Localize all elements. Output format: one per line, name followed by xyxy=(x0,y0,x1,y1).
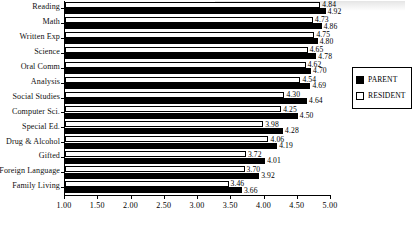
bar-value-label: 4.86 xyxy=(324,23,338,31)
bar-group: 4.254.50 xyxy=(65,105,331,120)
bar-value-label: 4.78 xyxy=(318,53,332,61)
bar-resident xyxy=(65,32,314,38)
bar-parent xyxy=(65,113,298,119)
category-label-computer-sci: Computer Sci. xyxy=(12,107,60,116)
bar-group: 3.703.92 xyxy=(65,165,331,180)
bar-value-label: 4.19 xyxy=(279,142,293,150)
category-label-oral-comm: Oral Comm xyxy=(21,62,60,71)
category-label-written-exp: Written Exp xyxy=(19,32,60,41)
bar-parent xyxy=(65,98,307,104)
plot-area: 4.844.924.734.864.754.804.654.784.624.70… xyxy=(64,1,331,195)
x-tick-label: 1.00 xyxy=(57,201,72,210)
bar-group: 4.734.86 xyxy=(65,16,331,31)
category-label-family-living: Family Living xyxy=(12,181,60,190)
x-tick-label: 5.00 xyxy=(323,201,338,210)
legend-label: PARENT xyxy=(368,76,397,84)
bar-value-label: 4.50 xyxy=(300,112,314,120)
bar-parent xyxy=(65,187,242,193)
x-tick-label: 3.50 xyxy=(223,201,238,210)
bar-group: 4.844.92 xyxy=(65,1,331,16)
category-label-foreign-language: Foreign Language xyxy=(0,166,60,175)
legend-label: RESIDENT xyxy=(368,92,406,100)
category-axis: ReadingMathWritten ExpScienceOral CommAn… xyxy=(0,0,62,196)
bar-resident xyxy=(65,2,320,8)
chart-legend: PARENTRESIDENT xyxy=(352,67,412,109)
legend-swatch-icon xyxy=(356,76,364,84)
bar-group: 4.064.19 xyxy=(65,135,331,150)
x-tick xyxy=(131,195,132,199)
legend-item-resident: RESIDENT xyxy=(356,88,408,104)
bar-parent xyxy=(65,173,259,179)
x-tick xyxy=(97,195,98,199)
x-tick xyxy=(330,195,331,199)
bar-resident xyxy=(65,47,308,53)
category-label-reading: Reading xyxy=(32,2,60,11)
bar-parent xyxy=(65,53,316,59)
legend-swatch-icon xyxy=(356,92,364,100)
bar-value-label: 4.64 xyxy=(309,97,323,105)
bar-value-label: 4.70 xyxy=(313,67,327,75)
bar-parent xyxy=(65,128,283,134)
x-tick xyxy=(197,195,198,199)
bar-value-label: 3.92 xyxy=(261,172,275,180)
x-tick-label: 2.00 xyxy=(123,201,138,210)
bar-parent xyxy=(65,143,277,149)
bar-group: 3.984.28 xyxy=(65,120,331,135)
bar-resident xyxy=(65,106,281,112)
bar-resident xyxy=(65,151,246,157)
bar-parent xyxy=(65,8,326,14)
bar-parent xyxy=(65,83,310,89)
bar-value-label: 4.69 xyxy=(312,82,326,90)
category-label-special-ed: Special Ed. xyxy=(22,122,60,131)
bar-value-label: 4.01 xyxy=(267,157,281,165)
category-label-social-studies: Social Studies xyxy=(13,92,61,101)
bar-group: 4.544.69 xyxy=(65,76,331,91)
bar-group: 4.754.80 xyxy=(65,31,331,46)
bar-resident xyxy=(65,181,229,187)
category-label-gifted: Gifted xyxy=(39,151,60,160)
bar-chart: ReadingMathWritten ExpScienceOral CommAn… xyxy=(0,0,416,226)
bar-group: 4.654.78 xyxy=(65,46,331,61)
bar-resident xyxy=(65,166,245,172)
bar-group: 4.304.64 xyxy=(65,91,331,106)
bar-value-label: 4.92 xyxy=(328,8,342,16)
bar-value-label: 4.28 xyxy=(285,127,299,135)
bar-value-label: 3.66 xyxy=(244,187,258,195)
bar-resident xyxy=(65,121,263,127)
bar-resident xyxy=(65,17,313,23)
bar-parent xyxy=(65,158,265,164)
legend-item-parent: PARENT xyxy=(356,72,408,88)
bar-group: 3.463.66 xyxy=(65,180,331,195)
bar-parent xyxy=(65,68,311,74)
category-label-science: Science xyxy=(34,47,60,56)
bar-group: 3.724.01 xyxy=(65,150,331,165)
bar-resident xyxy=(65,92,284,98)
x-tick-label: 1.50 xyxy=(90,201,105,210)
x-axis: 1.001.502.002.503.003.504.004.505.00 xyxy=(64,195,331,225)
x-tick-label: 2.50 xyxy=(156,201,171,210)
category-label-math: Math xyxy=(43,17,61,26)
bar-resident xyxy=(65,136,268,142)
x-tick-label: 4.00 xyxy=(256,201,271,210)
bar-resident xyxy=(65,77,300,83)
x-tick-label: 3.00 xyxy=(190,201,205,210)
x-tick xyxy=(264,195,265,199)
bar-parent xyxy=(65,38,318,44)
category-label-drug-alcohol: Drug & Alcohol xyxy=(6,137,60,146)
x-tick xyxy=(164,195,165,199)
x-tick xyxy=(230,195,231,199)
bar-resident xyxy=(65,62,306,68)
bar-group: 4.624.70 xyxy=(65,61,331,76)
x-tick xyxy=(64,195,65,199)
x-tick-label: 4.50 xyxy=(289,201,304,210)
bar-value-label: 4.80 xyxy=(320,38,334,46)
bar-parent xyxy=(65,23,322,29)
x-tick xyxy=(297,195,298,199)
category-label-analysis: Analysis xyxy=(31,77,60,86)
